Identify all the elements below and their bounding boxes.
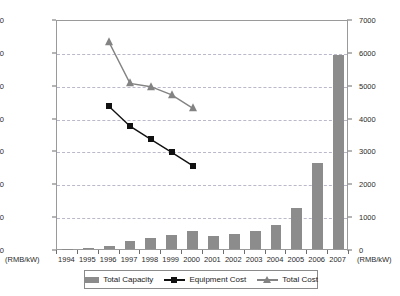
y-axis-left-tick-label: 6000 <box>0 147 4 156</box>
x-axis-tick-mark <box>181 250 182 254</box>
y-axis-left-tick-label: 4000 <box>0 180 4 189</box>
data-point-marker <box>105 38 113 46</box>
y-axis-left-tick-label: 14000 <box>0 16 4 25</box>
y-axis-left-tick-label: 8000 <box>0 114 4 123</box>
data-point-marker <box>127 123 133 129</box>
legend-label-total-capacity: Total Capacity <box>103 275 153 284</box>
x-axis-tick-mark <box>348 250 349 254</box>
x-axis-tick-label: 2005 <box>288 255 305 264</box>
legend-label-total-cost: Total Cost <box>282 275 318 284</box>
x-axis-tick-mark <box>56 250 57 254</box>
legend-item-total-capacity: Total Capacity <box>84 275 153 284</box>
x-axis-tick-label: 1996 <box>100 255 117 264</box>
x-axis-tick-mark <box>285 250 286 254</box>
y-axis-right-tick-label: 2000 <box>359 180 376 189</box>
x-axis-tick-label: 1994 <box>58 255 75 264</box>
x-axis-tick-label: 1998 <box>142 255 159 264</box>
y-axis-right: 01000200030004000500060007000 <box>347 0 400 252</box>
x-axis-tick-mark <box>139 250 140 254</box>
y-axis-left-tick-label: 10000 <box>0 81 4 90</box>
y-axis-left-tick-label: 2000 <box>0 213 4 222</box>
y-axis-right-tick-label: 6000 <box>359 48 376 57</box>
data-point-marker <box>190 163 196 169</box>
x-axis-tick-mark <box>223 250 224 254</box>
x-axis-tick-label: 2004 <box>267 255 284 264</box>
data-point-marker <box>148 136 154 142</box>
x-axis-tick-label: 1999 <box>162 255 179 264</box>
triangle-line-swatch-icon <box>257 275 278 284</box>
legend-item-equipment-cost: Equipment Cost <box>164 275 246 284</box>
x-axis-tick-mark <box>160 250 161 254</box>
x-axis-tick-mark <box>306 250 307 254</box>
y-axis-right-tick-label: 4000 <box>359 114 376 123</box>
chart-legend: Total Capacity Equipment Cost Total Cost <box>84 270 318 289</box>
x-axis-tick-label: 2007 <box>329 255 346 264</box>
plot-area <box>56 20 348 250</box>
legend-label-equipment-cost: Equipment Cost <box>189 275 246 284</box>
data-point-marker <box>169 149 175 155</box>
x-axis-tick-mark <box>327 250 328 254</box>
y-axis-right-unit: (RMB/kW) <box>357 255 392 264</box>
x-axis-tick-label: 2002 <box>225 255 242 264</box>
x-axis-tick-mark <box>98 250 99 254</box>
x-axis: 1994199519961997199819992000200120022003… <box>56 250 348 272</box>
line-series-layer <box>57 21 349 251</box>
x-axis-tick-label: 2000 <box>183 255 200 264</box>
x-axis-tick-mark <box>77 250 78 254</box>
y-axis-left: 02000400060008000100001200014000 <box>0 0 56 252</box>
data-point-marker <box>106 103 112 109</box>
legend-item-total-cost: Total Cost <box>257 275 318 284</box>
y-axis-left-unit: (RMB/kW) <box>5 255 40 264</box>
chart-container: 02000400060008000100001200014000 0100020… <box>0 0 400 296</box>
square-line-swatch-icon <box>164 275 185 284</box>
data-point-marker <box>189 103 197 111</box>
x-axis-tick-mark <box>265 250 266 254</box>
y-axis-right-tick-label: 1000 <box>359 213 376 222</box>
x-axis-tick-label: 1995 <box>79 255 96 264</box>
x-axis-tick-label: 2003 <box>246 255 263 264</box>
y-axis-right-tick-label: 0 <box>359 246 363 255</box>
data-point-marker <box>168 90 176 98</box>
x-axis-tick-label: 1997 <box>121 255 138 264</box>
y-axis-right-tick-label: 3000 <box>359 147 376 156</box>
x-axis-tick-label: 2006 <box>308 255 325 264</box>
y-axis-left-tick-label: 12000 <box>0 48 4 57</box>
x-axis-tick-mark <box>202 250 203 254</box>
y-axis-right-tick-label: 5000 <box>359 81 376 90</box>
data-point-marker <box>147 82 155 90</box>
line-path-triangle <box>109 42 192 108</box>
x-axis-tick-mark <box>119 250 120 254</box>
y-axis-left-tick-label: 0 <box>0 246 4 255</box>
y-axis-right-tick-label: 7000 <box>359 16 376 25</box>
x-axis-tick-mark <box>244 250 245 254</box>
bar-swatch-icon <box>84 277 99 283</box>
data-point-marker <box>126 79 134 87</box>
x-axis-tick-label: 2001 <box>204 255 221 264</box>
